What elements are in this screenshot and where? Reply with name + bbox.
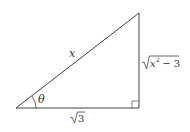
adjacent-label: 3	[70, 112, 85, 124]
opposite-label: x 2 − 3	[142, 56, 180, 69]
angle-label: θ	[38, 93, 45, 106]
right-angle-marker	[132, 101, 139, 108]
hypotenuse-label: x	[69, 47, 76, 60]
svg-text:3: 3	[78, 113, 84, 124]
right-triangle-diagram: θ x 3 x 2 − 3	[0, 0, 190, 132]
angle-arc	[32, 96, 36, 108]
hypotenuse-side	[16, 13, 139, 108]
svg-text:− 3: − 3	[159, 58, 180, 69]
